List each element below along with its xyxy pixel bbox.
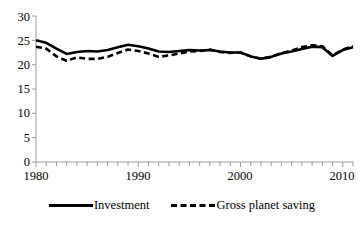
legend-item-gross-planet-saving: Gross planet saving bbox=[171, 199, 315, 212]
y-axis-ticks bbox=[32, 16, 36, 162]
chart-figure: 30 25 20 15 10 5 0 1980 1990 2000 2010 I… bbox=[0, 0, 364, 225]
legend-label: Investment bbox=[94, 199, 150, 212]
series-line-investment bbox=[36, 40, 353, 59]
legend-swatch-dashed-line bbox=[171, 204, 215, 207]
axes bbox=[32, 16, 353, 167]
chart-legend: Investment Gross planet saving bbox=[0, 192, 364, 218]
legend-item-investment: Investment bbox=[49, 199, 150, 212]
legend-swatch-solid-line bbox=[49, 204, 93, 207]
legend-label: Gross planet saving bbox=[216, 199, 315, 212]
data-series-layer bbox=[36, 40, 353, 60]
x-axis-ticks bbox=[36, 162, 353, 167]
